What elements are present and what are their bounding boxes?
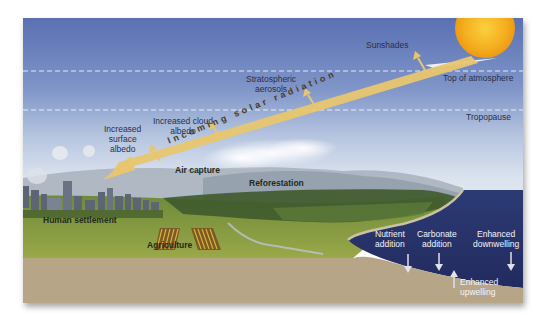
surface-albedo-line1: Increased — [104, 124, 141, 134]
surface-albedo-line3: albedo — [104, 144, 141, 154]
downwelling-line2: downwelling — [473, 239, 519, 249]
sunshades-label: Sunshades — [366, 40, 409, 50]
nutrient-line2: addition — [375, 239, 405, 249]
nutrient-addition-label: Nutrient addition — [375, 229, 405, 249]
stratospheric-aerosols-line2: aerosols — [246, 84, 296, 94]
carbonate-addition-label: Carbonate addition — [417, 229, 457, 249]
nutrient-line1: Nutrient — [375, 229, 405, 239]
smoke-cloud — [52, 146, 68, 160]
surface-albedo-label: Increased surface albedo — [104, 124, 141, 154]
upwelling-line1: Enhanced — [460, 277, 498, 287]
surface-albedo-line2: surface — [104, 134, 141, 144]
cloud-albedo-line2: albedo — [153, 126, 213, 136]
agriculture-label: Agriculture — [147, 240, 192, 250]
tropopause-label: Tropopause — [466, 112, 511, 122]
diagram-scene — [23, 18, 523, 303]
enhanced-downwelling-label: Enhanced downwelling — [473, 229, 519, 249]
cloud-albedo-line1: Increased cloud — [153, 116, 213, 126]
carbonate-line1: Carbonate — [417, 229, 457, 239]
downwelling-line1: Enhanced — [473, 229, 519, 239]
cloud-albedo-label: Increased cloud albedo — [153, 116, 213, 136]
diagram-frame: Incoming solar radiation Sunshades Top o… — [23, 18, 523, 303]
top-of-atmosphere-label: Top of atmosphere — [443, 73, 513, 83]
stratospheric-aerosols-label: Stratospheric aerosols — [246, 74, 296, 94]
carbonate-line2: addition — [417, 239, 457, 249]
enhanced-upwelling-label: Enhanced upwelling — [460, 277, 498, 297]
upwelling-line2: upwelling — [460, 287, 498, 297]
reforestation-label: Reforestation — [249, 178, 304, 188]
air-capture-label: Air capture — [175, 165, 220, 175]
stratospheric-aerosols-line1: Stratospheric — [246, 74, 296, 84]
human-settlement-label: Human settlement — [43, 215, 117, 225]
